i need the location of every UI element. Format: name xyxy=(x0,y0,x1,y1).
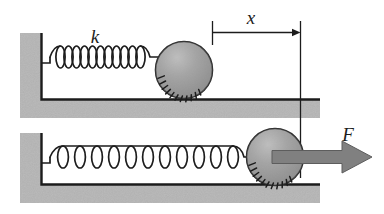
ball-top xyxy=(156,42,213,102)
panel-stretched: F xyxy=(20,124,372,203)
spring-mass-figure: k x xyxy=(0,0,384,214)
wall-block-top xyxy=(20,33,41,100)
spring-constant-label: k xyxy=(91,26,100,47)
floor-band-bottom xyxy=(20,185,320,203)
figure-canvas: k x xyxy=(0,0,384,214)
displacement-label: x xyxy=(246,7,256,28)
spring-stretched xyxy=(50,146,252,168)
panel-relaxed: k xyxy=(20,26,320,118)
spring-anchor-top xyxy=(42,57,51,63)
spring-relaxed xyxy=(50,46,159,68)
dimension-arrowhead xyxy=(292,29,301,36)
force-label: F xyxy=(341,124,354,145)
floor-band-top xyxy=(20,100,320,118)
spring-anchor-bottom xyxy=(42,157,51,163)
